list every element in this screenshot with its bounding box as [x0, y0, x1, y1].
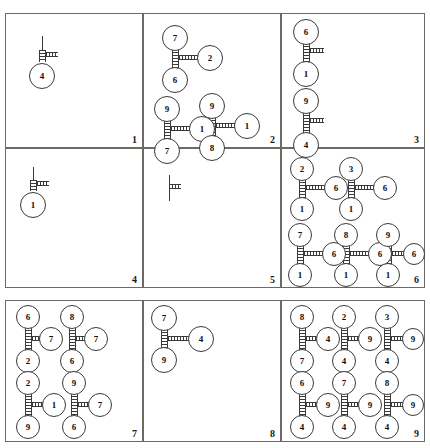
graph-node: 4: [375, 415, 399, 439]
graph-node: 7: [288, 223, 312, 247]
graph-node: 7: [290, 349, 314, 373]
graph-node: 4: [29, 63, 55, 89]
graph-node: 7: [151, 305, 177, 331]
ladder-connector-vertical: [384, 393, 391, 417]
diagram-panel: 6728762199767: [5, 300, 143, 442]
panel-number-label: 8: [270, 429, 275, 439]
graph-node: 9: [402, 328, 424, 350]
ladder-connector-vertical: [341, 327, 348, 350]
ladder-connector-vertical: [299, 327, 306, 350]
panel-number-label: 1: [132, 135, 137, 145]
graph-node: 7: [154, 138, 180, 164]
graph-node: 4: [332, 349, 356, 373]
diagram-panel: 61943: [281, 13, 425, 148]
graph-node: 7: [39, 327, 63, 351]
graph-node: 1: [288, 263, 312, 287]
ladder-connector-horizontal: [310, 118, 324, 123]
graph-node: 7: [162, 25, 188, 51]
ladder-connector-vertical: [30, 180, 37, 191]
graph-node: 2: [290, 157, 314, 181]
ladder-connector-vertical: [25, 327, 32, 350]
graph-node: 6: [16, 305, 40, 329]
ladder-connector-vertical: [341, 393, 348, 417]
graph-node: 8: [375, 371, 399, 395]
graph-node: 9: [154, 96, 180, 122]
graph-node: 1: [290, 197, 314, 221]
panel-number-label: 5: [270, 275, 275, 285]
graph-node: 1: [334, 263, 358, 287]
graph-node: 3: [375, 305, 399, 329]
stem-line: [42, 36, 43, 50]
panel-number-label: 2: [270, 135, 275, 145]
ladder-connector-vertical: [71, 393, 78, 417]
graph-node: 9: [358, 393, 382, 417]
ladder-connector-horizontal: [216, 123, 235, 128]
graph-node: 4: [375, 349, 399, 373]
ladder-connector-horizontal: [306, 185, 325, 190]
ladder-connector-vertical: [39, 50, 46, 62]
diagram-panel: 14: [5, 148, 143, 288]
graph-node: 1: [20, 192, 46, 218]
diagram-panel: 5: [143, 148, 281, 288]
diagram-panel: 8472943946947948949: [281, 300, 425, 442]
graph-node: 8: [60, 305, 84, 329]
graph-node: 1: [234, 113, 260, 139]
graph-node: 4: [293, 132, 319, 158]
stem-line: [33, 167, 34, 180]
diagram-panel: 7269179182: [143, 13, 281, 148]
panel-number-label: 6: [414, 275, 419, 285]
graph-node: 3: [339, 157, 363, 181]
graph-node: 1: [376, 263, 400, 287]
graph-node: 9: [151, 347, 177, 373]
diagram-panel: 2613617618619616: [281, 148, 425, 288]
graph-node: 6: [403, 243, 425, 265]
graph-node: 2: [332, 305, 356, 329]
ladder-connector-horizontal: [310, 48, 324, 53]
ladder-connector-horizontal: [179, 55, 198, 60]
ladder-connector-vertical: [384, 327, 391, 350]
panel-number-label: 9: [414, 429, 419, 439]
graph-node: 7: [332, 371, 356, 395]
ladder-connector-horizontal: [168, 336, 189, 341]
graph-node: 2: [197, 45, 223, 71]
graph-node: 7: [88, 393, 112, 417]
graph-node: 6: [62, 415, 86, 439]
graph-node: 6: [290, 371, 314, 395]
graph-node: 6: [60, 349, 84, 373]
ladder-connector-horizontal: [350, 251, 369, 256]
graph-node: 2: [16, 349, 40, 373]
graph-node: 1: [42, 393, 66, 417]
graph-node: 1: [293, 61, 319, 87]
ladder-connector-horizontal: [171, 126, 190, 131]
ladder-connector-horizontal: [304, 251, 323, 256]
ladder-connector-horizontal: [169, 184, 181, 189]
diagram-sheet: 4172691791826194314526136176186196166728…: [0, 0, 430, 448]
graph-node: 6: [162, 67, 188, 93]
graph-node: 8: [334, 223, 358, 247]
diagram-panel: 7498: [143, 300, 281, 442]
graph-node: 7: [84, 327, 108, 351]
ladder-connector-vertical: [299, 393, 306, 417]
ladder-connector-horizontal: [37, 181, 49, 186]
graph-node: 8: [199, 135, 225, 161]
graph-node: 6: [293, 19, 319, 45]
diagram-panel: 41: [5, 13, 143, 148]
ladder-connector-horizontal: [46, 52, 58, 57]
graph-node: 6: [373, 176, 397, 200]
graph-node: 9: [376, 223, 400, 247]
graph-node: 9: [16, 415, 40, 439]
ladder-connector-vertical: [25, 393, 32, 417]
graph-node: 9: [402, 394, 424, 416]
graph-node: 8: [290, 305, 314, 329]
graph-node: 4: [316, 327, 340, 351]
graph-node: 2: [16, 371, 40, 395]
graph-node: 4: [332, 415, 356, 439]
graph-node: 9: [358, 327, 382, 351]
graph-node: 9: [199, 93, 225, 119]
graph-node: 1: [339, 197, 363, 221]
panel-number-label: 7: [132, 429, 137, 439]
graph-node: 4: [290, 415, 314, 439]
ladder-connector-horizontal: [355, 185, 374, 190]
graph-node: 4: [188, 326, 214, 352]
graph-node: 9: [62, 371, 86, 395]
